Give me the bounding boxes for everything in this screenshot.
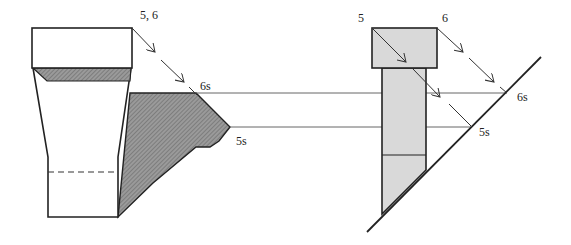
- label-5-6: 5, 6: [140, 8, 158, 22]
- label-6s-left: 6s: [200, 79, 211, 93]
- tapered-body: [33, 68, 131, 217]
- top-box-side: [372, 28, 437, 68]
- light-ray-arrow-1: [132, 28, 155, 52]
- label-5s-right: 5s: [479, 125, 490, 139]
- ray-6-tail: [500, 87, 507, 93]
- label-5s-left: 5s: [236, 134, 247, 148]
- label-5-right: 5: [358, 11, 364, 25]
- cast-shadow: [118, 93, 230, 217]
- hatched-band: [33, 68, 131, 81]
- right-figure: 5 6 6s 5s: [358, 11, 541, 232]
- projection-lines: [196, 93, 507, 127]
- shaft: [382, 68, 426, 214]
- ray-6-arrow-1: [437, 28, 463, 52]
- ray-5-tail: [449, 104, 472, 127]
- ray-6-arrow-2: [469, 58, 494, 82]
- label-6-right: 6: [442, 11, 448, 25]
- light-ray-arrow-2: [161, 60, 184, 82]
- shadow-projection-diagram: 5, 6 6s 5s 5 6 6s 5s: [0, 0, 571, 245]
- label-6s-right: 6s: [517, 90, 528, 104]
- left-figure: 5, 6 6s 5s: [32, 8, 247, 217]
- top-box: [32, 28, 132, 68]
